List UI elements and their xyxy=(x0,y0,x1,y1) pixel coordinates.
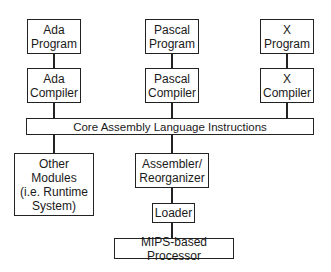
ada-program-node: AdaProgram xyxy=(27,19,81,54)
node-label: MIPS-based Processor xyxy=(115,235,233,263)
edge-x-program-compiler xyxy=(286,53,288,68)
loader-node: Loader xyxy=(152,203,195,223)
node-label: Pascal xyxy=(149,23,195,37)
other-modules-node: Other Modules (i.e. Runtime System) xyxy=(14,153,94,216)
edge-pascal-program-compiler xyxy=(171,53,173,68)
assembler-reorganizer-node: Assembler/Reorganizer xyxy=(135,153,209,188)
edge-ada-program-compiler xyxy=(53,53,55,68)
edge-core-assembler xyxy=(171,134,173,153)
node-label: Compiler xyxy=(30,86,78,100)
node-label: Core Assembly Language Instructions xyxy=(73,120,267,134)
edge-pascal-compiler-core xyxy=(171,102,173,118)
edge-assembler-loader xyxy=(171,187,173,203)
x-program-node: XProgram xyxy=(260,19,314,54)
node-label: Pascal xyxy=(148,72,196,86)
node-label: Loader xyxy=(155,206,192,220)
node-label: Other xyxy=(20,157,88,171)
node-label: Modules xyxy=(20,171,88,185)
node-label: X xyxy=(263,72,311,86)
mips-processor-node: MIPS-based Processor xyxy=(114,238,234,259)
x-compiler-node: XCompiler xyxy=(260,68,314,103)
edge-ada-compiler-core xyxy=(53,102,55,118)
pascal-program-node: PascalProgram xyxy=(145,19,199,54)
pascal-compiler-node: PascalCompiler xyxy=(145,68,199,103)
ada-compiler-node: AdaCompiler xyxy=(27,68,81,103)
node-label: Program xyxy=(31,37,77,51)
node-label: Compiler xyxy=(148,86,196,100)
node-label: System) xyxy=(20,199,88,213)
node-label: Ada xyxy=(31,23,77,37)
node-label: Assembler/ xyxy=(139,157,204,171)
node-label: Compiler xyxy=(263,86,311,100)
node-label: Program xyxy=(149,37,195,51)
node-label: (i.e. Runtime xyxy=(20,185,88,199)
core-assembly-node: Core Assembly Language Instructions xyxy=(26,118,314,135)
node-label: Ada xyxy=(30,72,78,86)
node-label: Reorganizer xyxy=(139,171,204,185)
node-label: X xyxy=(264,23,310,37)
node-label: Program xyxy=(264,37,310,51)
edge-core-other-modules xyxy=(53,134,55,153)
edge-x-compiler-core xyxy=(286,102,288,118)
